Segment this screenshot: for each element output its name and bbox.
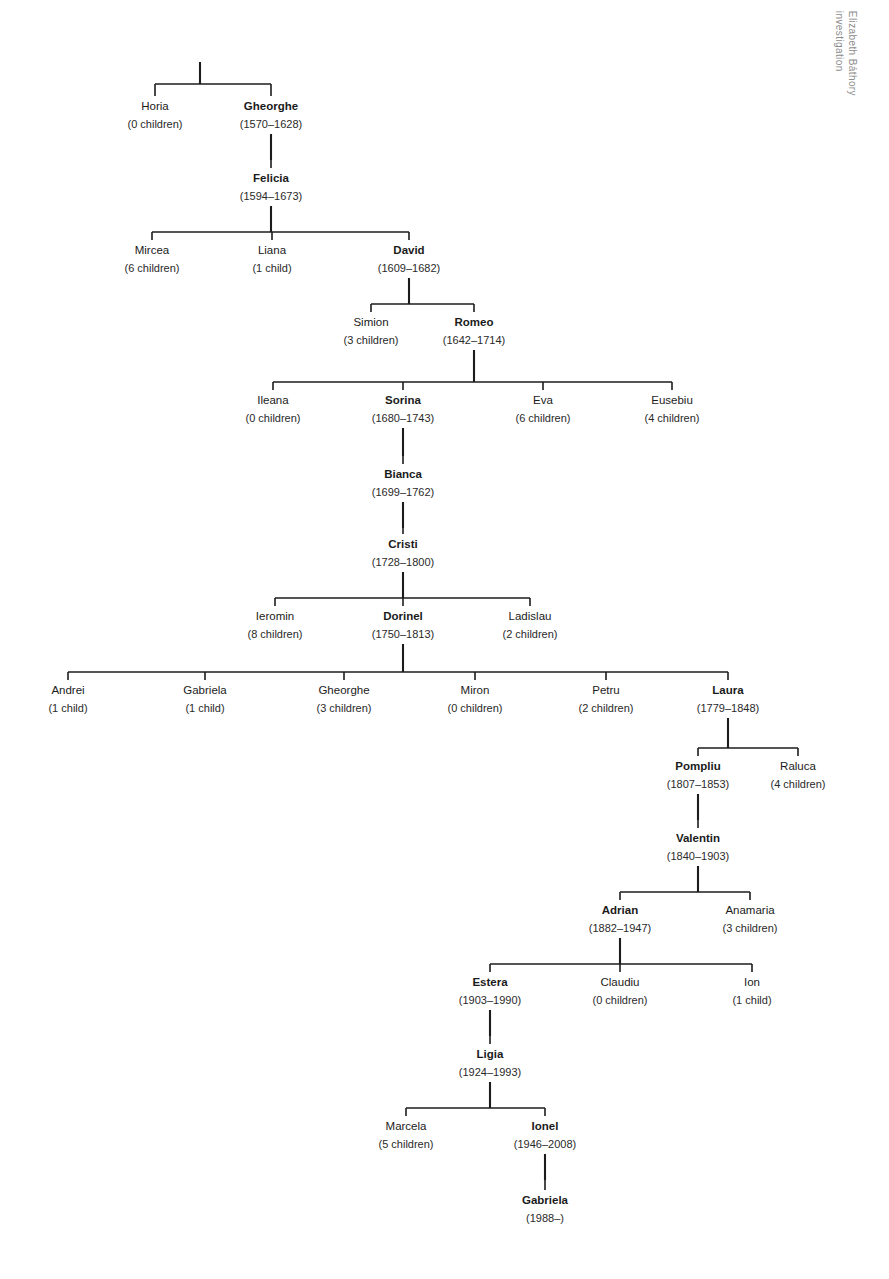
person-name: Valentin bbox=[676, 832, 720, 844]
person-name: Adrian bbox=[602, 904, 638, 916]
person-detail: (2 children) bbox=[502, 628, 557, 640]
person-node-dorinel[interactable]: Dorinel(1750–1813) bbox=[372, 610, 434, 640]
person-detail: (4 children) bbox=[644, 412, 699, 424]
person-node-mircea[interactable]: Mircea(6 children) bbox=[124, 244, 179, 274]
person-node-gabriela1[interactable]: Gabriela(1 child) bbox=[183, 684, 227, 714]
person-name: Felicia bbox=[253, 172, 289, 184]
person-node-romeo[interactable]: Romeo(1642–1714) bbox=[443, 316, 505, 346]
person-detail: (2 children) bbox=[578, 702, 633, 714]
person-node-adrian[interactable]: Adrian(1882–1947) bbox=[589, 904, 651, 934]
person-node-andrei[interactable]: Andrei(1 child) bbox=[48, 684, 87, 714]
person-detail: (5 children) bbox=[378, 1138, 433, 1150]
person-name: Ligia bbox=[477, 1048, 504, 1060]
person-detail: (1750–1813) bbox=[372, 628, 434, 640]
margin-annotation-line-2: investigation bbox=[833, 11, 846, 96]
connector-dorinel-kids bbox=[68, 644, 728, 680]
person-node-ligia[interactable]: Ligia(1924–1993) bbox=[459, 1048, 521, 1078]
person-name: Eva bbox=[533, 394, 553, 406]
person-name: Ionel bbox=[532, 1120, 559, 1132]
person-name: Ileana bbox=[257, 394, 289, 406]
connector-laura-kids bbox=[698, 718, 798, 756]
person-name: Eusebiu bbox=[651, 394, 693, 406]
person-detail: (0 children) bbox=[127, 118, 182, 130]
person-node-liana[interactable]: Liana(1 child) bbox=[252, 244, 291, 274]
person-node-cristi[interactable]: Cristi(1728–1800) bbox=[372, 538, 434, 568]
person-detail: (1642–1714) bbox=[443, 334, 505, 346]
person-detail: (1840–1903) bbox=[667, 850, 729, 862]
connector-root-stub bbox=[155, 62, 271, 96]
person-detail: (1779–1848) bbox=[697, 702, 759, 714]
person-name: Pompliu bbox=[675, 760, 720, 772]
person-name: Laura bbox=[712, 684, 744, 696]
person-node-miron[interactable]: Miron(0 children) bbox=[447, 684, 502, 714]
person-detail: (1 child) bbox=[185, 702, 224, 714]
person-name: Ieromin bbox=[256, 610, 294, 622]
person-node-marcela[interactable]: Marcela(5 children) bbox=[378, 1120, 433, 1150]
person-node-estera[interactable]: Estera(1903–1990) bbox=[459, 976, 521, 1006]
person-node-gheorghe2[interactable]: Gheorghe(3 children) bbox=[316, 684, 371, 714]
person-node-ion[interactable]: Ion(1 child) bbox=[732, 976, 771, 1006]
person-detail: (1988–) bbox=[526, 1212, 564, 1224]
person-name: Liana bbox=[258, 244, 287, 256]
person-detail: (1924–1993) bbox=[459, 1066, 521, 1078]
person-name: Gabriela bbox=[183, 684, 227, 696]
connector-valentin-kids bbox=[620, 866, 750, 900]
person-node-ieromin[interactable]: Ieromin(8 children) bbox=[247, 610, 302, 640]
person-name: Romeo bbox=[455, 316, 494, 328]
person-detail: (1609–1682) bbox=[378, 262, 440, 274]
person-detail: (1 child) bbox=[732, 994, 771, 1006]
person-node-eva[interactable]: Eva(6 children) bbox=[515, 394, 570, 424]
person-detail: (0 children) bbox=[592, 994, 647, 1006]
person-name: Petru bbox=[592, 684, 620, 696]
person-node-gheorghe1[interactable]: Gheorghe(1570–1628) bbox=[240, 100, 302, 130]
person-node-ionel[interactable]: Ionel(1946–2008) bbox=[514, 1120, 576, 1150]
person-node-bianca[interactable]: Bianca(1699–1762) bbox=[372, 468, 434, 498]
person-detail: (8 children) bbox=[247, 628, 302, 640]
person-node-petru[interactable]: Petru(2 children) bbox=[578, 684, 633, 714]
person-detail: (1680–1743) bbox=[372, 412, 434, 424]
person-detail: (1882–1947) bbox=[589, 922, 651, 934]
person-node-anamaria[interactable]: Anamaria(3 children) bbox=[722, 904, 777, 934]
person-detail: (1570–1628) bbox=[240, 118, 302, 130]
connector-cristi-kids bbox=[275, 572, 530, 606]
person-node-claudiu[interactable]: Claudiu(0 children) bbox=[592, 976, 647, 1006]
person-name: Bianca bbox=[384, 468, 422, 480]
person-name: Claudiu bbox=[601, 976, 640, 988]
person-node-simion[interactable]: Simion(3 children) bbox=[343, 316, 398, 346]
person-node-pompliu[interactable]: Pompliu(1807–1853) bbox=[667, 760, 729, 790]
person-node-ileana[interactable]: Ileana(0 children) bbox=[245, 394, 300, 424]
person-name: Horia bbox=[141, 100, 169, 112]
person-detail: (3 children) bbox=[722, 922, 777, 934]
person-node-ladislau[interactable]: Ladislau(2 children) bbox=[502, 610, 557, 640]
person-node-eusebiu[interactable]: Eusebiu(4 children) bbox=[644, 394, 699, 424]
person-name: Gheorghe bbox=[244, 100, 298, 112]
person-name: Simion bbox=[353, 316, 388, 328]
person-name: Ladislau bbox=[509, 610, 552, 622]
person-detail: (1699–1762) bbox=[372, 486, 434, 498]
person-name: Miron bbox=[461, 684, 490, 696]
person-detail: (1946–2008) bbox=[514, 1138, 576, 1150]
person-node-david[interactable]: David(1609–1682) bbox=[378, 244, 440, 274]
person-node-valentin[interactable]: Valentin(1840–1903) bbox=[667, 832, 729, 862]
person-node-laura[interactable]: Laura(1779–1848) bbox=[697, 684, 759, 714]
connector-david-kids bbox=[371, 278, 474, 312]
person-detail: (3 children) bbox=[343, 334, 398, 346]
person-name: Andrei bbox=[51, 684, 84, 696]
person-detail: (6 children) bbox=[124, 262, 179, 274]
person-detail: (6 children) bbox=[515, 412, 570, 424]
person-node-gabriela2[interactable]: Gabriela(1988–) bbox=[522, 1194, 569, 1224]
connector-ligia-kids bbox=[406, 1082, 545, 1116]
person-name: Raluca bbox=[780, 760, 816, 772]
connector-felicia-kids bbox=[152, 206, 409, 240]
margin-annotation-line-1: Elizabeth Báthory bbox=[846, 11, 859, 96]
person-node-horia[interactable]: Horia(0 children) bbox=[127, 100, 182, 130]
person-detail: (1728–1800) bbox=[372, 556, 434, 568]
person-name: Gheorghe bbox=[318, 684, 369, 696]
person-node-felicia[interactable]: Felicia(1594–1673) bbox=[240, 172, 302, 202]
connector-lines bbox=[68, 62, 798, 1190]
person-node-raluca[interactable]: Raluca(4 children) bbox=[770, 760, 825, 790]
person-name: Gabriela bbox=[522, 1194, 569, 1206]
family-tree-diagram: Horia(0 children)Gheorghe(1570–1628)Feli… bbox=[0, 0, 889, 1279]
person-node-sorina[interactable]: Sorina(1680–1743) bbox=[372, 394, 434, 424]
person-detail: (0 children) bbox=[245, 412, 300, 424]
